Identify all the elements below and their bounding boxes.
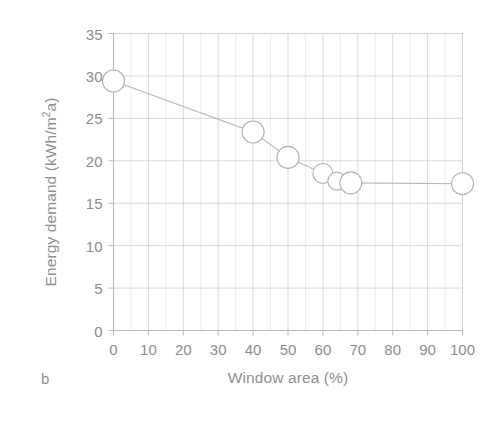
- x-axis-tick-label: 50: [280, 341, 297, 358]
- x-axis-tick-label: 80: [384, 341, 401, 358]
- y-axis-tick-label: 0: [48, 322, 103, 339]
- x-axis-tick-label: 20: [175, 341, 192, 358]
- x-axis-tick-label: 70: [349, 341, 366, 358]
- data-point-marker: [277, 146, 299, 168]
- data-point-marker: [340, 172, 362, 194]
- x-axis-tick-label: 0: [109, 341, 117, 358]
- data-point-marker: [103, 70, 125, 92]
- x-axis-tick-label: 40: [245, 341, 262, 358]
- data-point-marker: [452, 173, 474, 195]
- data-point-marker: [242, 121, 264, 143]
- x-axis-tick-label: 60: [315, 341, 332, 358]
- x-axis-tick-label: 90: [419, 341, 436, 358]
- y-axis-tick-label: 20: [48, 152, 103, 169]
- figure-panel-b: Energy demand (kWh/m2a) Window area (%) …: [0, 0, 501, 422]
- x-axis-tick-label: 100: [450, 341, 475, 358]
- y-axis-tick-label: 25: [48, 110, 103, 127]
- x-axis-tick-label: 10: [140, 341, 157, 358]
- y-axis-tick-label: 35: [48, 25, 103, 42]
- panel-label: b: [41, 370, 49, 387]
- y-axis-tick-label: 15: [48, 195, 103, 212]
- y-axis-tick-label: 10: [48, 237, 103, 254]
- y-axis-tick-label: 30: [48, 67, 103, 84]
- y-axis-tick-label: 5: [48, 280, 103, 297]
- axis-ticks: [109, 34, 463, 336]
- x-axis-title: Window area (%): [113, 369, 463, 387]
- x-axis-tick-label: 30: [210, 341, 227, 358]
